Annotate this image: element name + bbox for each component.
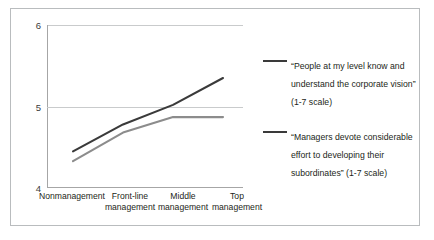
legend-swatch-icon: [263, 60, 287, 62]
legend-label: “People at my level know and understand …: [291, 61, 416, 107]
chart-figure: 6 5 4 Nonmanagement Front-line managemen…: [10, 8, 420, 226]
legend-item-corporate-vision: “People at my level know and understand …: [263, 55, 421, 109]
legend-label: “Managers devote considerable effort to …: [291, 132, 413, 178]
chart-legend: “People at my level know and understand …: [263, 55, 421, 197]
plot-region: 6 5 4 Nonmanagement Front-line managemen…: [11, 9, 261, 225]
legend-swatch-icon: [263, 131, 287, 133]
x-tick-label-top-management: Top management: [202, 191, 272, 213]
line-corporate-vision: [73, 78, 223, 151]
legend-item-developing-subordinates: “Managers devote considerable effort to …: [263, 126, 421, 180]
x-axis-tick-labels: Nonmanagement Front-line management Midd…: [47, 191, 247, 225]
